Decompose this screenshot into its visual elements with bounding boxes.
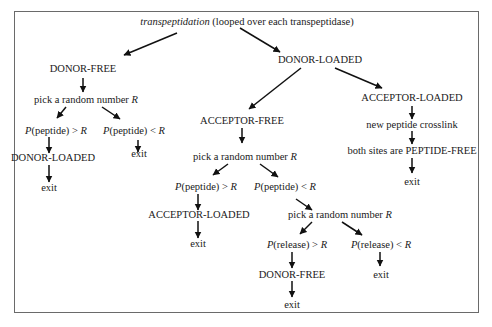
- arrow-root-donor-free: [124, 33, 177, 55]
- acceptor-loaded-state: ACCEPTOR-LOADED: [361, 92, 463, 103]
- arrow-to-acceptor-free: [249, 68, 301, 109]
- arrow-to-acceptor-loaded: [335, 68, 382, 88]
- transpeptidation-flowchart: transpeptidation (looped over each trans…: [0, 0, 492, 327]
- condition-peptide-gt: P(peptide) > R: [174, 181, 238, 193]
- condition-peptide-gt: P(peptide) > R: [24, 125, 88, 137]
- pick-random-middle: pick a random number R: [193, 151, 297, 162]
- donor-free-state: DONOR-FREE: [259, 269, 326, 280]
- condition-release-lt: P(release) < R: [350, 239, 412, 251]
- acceptor-free-state: ACCEPTOR-FREE: [200, 115, 284, 126]
- exit-label: exit: [41, 182, 57, 193]
- root-label: transpeptidation (looped over each trans…: [140, 16, 354, 28]
- peptide-free-step: both sites are PEPTIDE-FREE: [347, 145, 476, 156]
- donor-loaded-state: DONOR-LOADED: [278, 54, 362, 65]
- condition-release-gt: P(release) > R: [266, 239, 328, 251]
- condition-peptide-lt: P(peptide) < R: [253, 181, 317, 193]
- pick-random-release: pick a random number R: [288, 209, 392, 220]
- pick-random-left: pick a random number R: [34, 94, 138, 105]
- arrow-down-left: [57, 107, 66, 118]
- arrow-down-right: [260, 164, 278, 177]
- condition-peptide-lt: P(peptide) < R: [102, 125, 166, 137]
- acceptor-loaded-state: ACCEPTOR-LOADED: [148, 209, 250, 220]
- new-crosslink-step: new peptide crosslink: [366, 119, 458, 130]
- donor-loaded-state: DONOR-LOADED: [11, 152, 95, 163]
- exit-label: exit: [190, 238, 206, 249]
- arrow-root-donor-loaded: [240, 28, 280, 52]
- exit-label: exit: [404, 176, 420, 187]
- arrow-down-left: [300, 222, 312, 234]
- exit-label: exit: [373, 269, 389, 280]
- exit-label: exit: [131, 148, 147, 159]
- donor-free-state: DONOR-FREE: [50, 63, 117, 74]
- arrow-down-left: [213, 164, 228, 175]
- arrow-down-right: [102, 107, 120, 119]
- exit-label: exit: [284, 299, 300, 310]
- arrow-down-right: [342, 222, 362, 235]
